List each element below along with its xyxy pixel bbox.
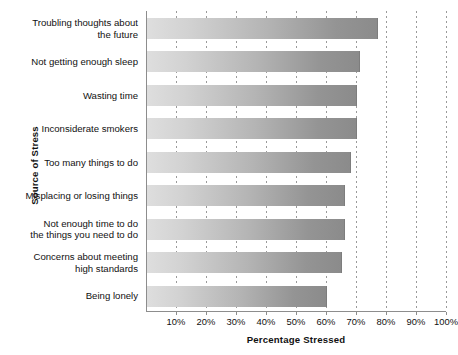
x-axis-tick-label: 100%: [434, 316, 458, 327]
x-axis-tick-label-list: 10%20%30%40%50%60%70%80%90%100%: [146, 316, 446, 330]
x-axis-tick-label: 50%: [287, 316, 306, 327]
chart-title: [146, 0, 446, 5]
bar: [147, 185, 345, 206]
x-axis-tick: [266, 312, 267, 315]
x-axis-tick: [326, 312, 327, 315]
gridline: [446, 11, 447, 311]
bar: [147, 51, 360, 72]
bar: [147, 219, 345, 240]
x-axis-tick-label: 10%: [167, 316, 186, 327]
x-axis-tick: [446, 312, 447, 315]
bar: [147, 18, 378, 39]
x-axis-tick: [416, 312, 417, 315]
category-label: Too many things to do: [0, 157, 138, 168]
category-label: Concerns about meeting high standards: [0, 251, 138, 274]
gridline: [386, 11, 387, 311]
x-axis-tick-label: 20%: [197, 316, 216, 327]
bar: [147, 85, 357, 106]
category-label: Being lonely: [0, 290, 138, 301]
bar: [147, 152, 351, 173]
bar: [147, 286, 327, 307]
bar: [147, 118, 357, 139]
category-label: Wasting time: [0, 90, 138, 101]
plot-area: [146, 11, 446, 312]
x-axis-tick: [296, 312, 297, 315]
x-axis-tick-label: 60%: [317, 316, 336, 327]
bar: [147, 252, 342, 273]
x-axis-tick-label: 70%: [347, 316, 366, 327]
x-axis-tick-label: 80%: [377, 316, 396, 327]
x-axis-tick: [206, 312, 207, 315]
category-label: Troubling thoughts about the future: [0, 17, 138, 40]
category-label: Misplacing or losing things: [0, 190, 138, 201]
x-axis-tick: [356, 312, 357, 315]
category-label-list: Troubling thoughts about the futureNot g…: [8, 11, 142, 312]
x-axis-title: Percentage Stressed: [146, 334, 446, 345]
gridline: [416, 11, 417, 311]
x-axis-tick-label: 30%: [227, 316, 246, 327]
x-axis-tick: [386, 312, 387, 315]
category-label: Inconsiderate smokers: [0, 123, 138, 134]
x-axis-tick-label: 90%: [407, 316, 426, 327]
category-label: Not enough time to do the things you nee…: [0, 218, 138, 241]
x-axis-tick: [176, 312, 177, 315]
category-label: Not getting enough sleep: [0, 56, 138, 67]
x-axis-tick-label: 40%: [257, 316, 276, 327]
x-axis-tick: [236, 312, 237, 315]
